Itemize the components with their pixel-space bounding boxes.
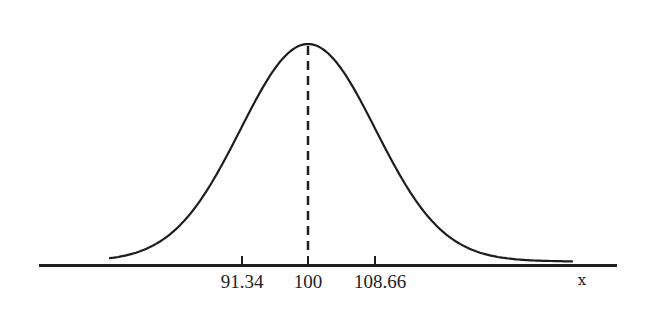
normal-curve-chart	[0, 0, 647, 313]
x-axis-label: x	[578, 271, 586, 289]
tick-label-100: 100	[294, 271, 323, 293]
tick-label-108-66: 108.66	[354, 271, 406, 293]
bell-curve	[110, 44, 572, 261]
tick-label-91-34: 91.34	[221, 271, 264, 293]
